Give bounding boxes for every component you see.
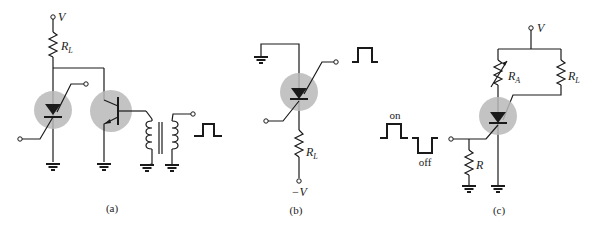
- caption-c: (c): [493, 204, 506, 217]
- panel-c: V RA RL R on off (c): [380, 21, 580, 217]
- ground-icon-a2: [97, 164, 111, 170]
- on-label: on: [390, 109, 402, 121]
- transformer-secondary: [165, 114, 191, 171]
- ground-icon-c2: [491, 186, 505, 192]
- supply-terminal-a[interactable]: [51, 15, 55, 19]
- gate-terminal-b-lower[interactable]: [264, 119, 268, 123]
- gate-resistor-r: [465, 150, 473, 175]
- gate-terminal-a-upper[interactable]: [84, 82, 88, 86]
- supply-terminal-c[interactable]: [529, 26, 533, 30]
- load-resistor-a: [49, 32, 57, 57]
- ground-icon-a1: [46, 164, 60, 170]
- load-resistor-c: [557, 60, 565, 85]
- gate-terminal-c[interactable]: [449, 137, 453, 141]
- caption-b: (b): [290, 204, 303, 217]
- on-pulse-waveform: [380, 124, 408, 138]
- load-label-b: RL: [305, 145, 318, 161]
- panel-a: V RL: [18, 10, 222, 215]
- load-label-a: RL: [60, 39, 73, 55]
- caption-a: (a): [106, 202, 119, 215]
- transformer-output-terminal[interactable]: [191, 112, 195, 116]
- off-pulse-waveform: [412, 138, 438, 153]
- ground-icon-c1: [462, 186, 476, 192]
- off-label: off: [419, 156, 432, 168]
- panel-b: RL −V (b): [254, 44, 378, 217]
- circuit-figure: V RL: [0, 0, 595, 228]
- supply-label-a: V: [58, 10, 67, 24]
- ground-icon-b: [254, 57, 268, 63]
- transformer-primary: [140, 119, 154, 171]
- load-resistor-b: [295, 130, 303, 157]
- pulse-waveform-b: [352, 48, 378, 62]
- pulse-waveform-a: [194, 124, 222, 136]
- supply-label-c: V: [537, 21, 546, 35]
- gate-terminal-b-upper[interactable]: [334, 60, 338, 64]
- supply-label-b: −V: [291, 185, 308, 199]
- gate-terminal-a-lower[interactable]: [18, 137, 22, 141]
- negative-supply-terminal-b[interactable]: [297, 179, 301, 183]
- ra-label: RA: [507, 69, 520, 85]
- r-label: R: [475, 158, 484, 172]
- rl-label-c: RL: [567, 69, 580, 85]
